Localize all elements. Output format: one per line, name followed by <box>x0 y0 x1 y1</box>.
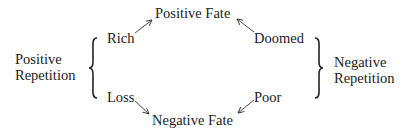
right-brace <box>315 38 323 98</box>
arrow-rich-to-positive-fate <box>135 20 152 33</box>
arrow-doomed-to-positive-fate <box>237 19 254 32</box>
diagram-connectors <box>0 0 411 136</box>
arrow-poor-to-negative-fate <box>238 100 254 113</box>
left-brace <box>89 38 97 98</box>
arrow-loss-to-negative-fate <box>135 101 149 114</box>
